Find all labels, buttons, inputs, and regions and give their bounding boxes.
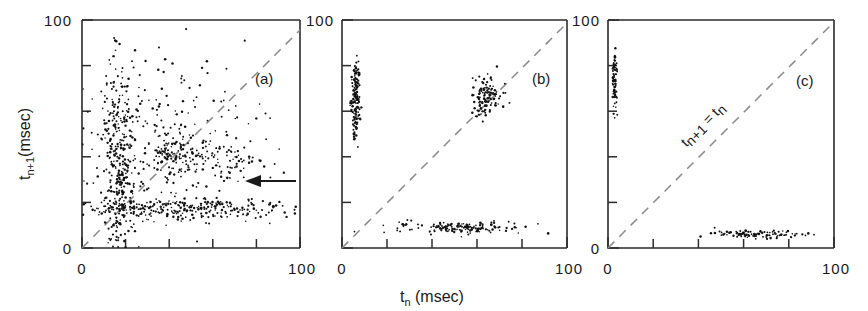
data-point (217, 158, 219, 160)
data-point (499, 95, 501, 97)
data-point (136, 203, 138, 205)
data-point (122, 67, 124, 69)
data-point (537, 223, 539, 225)
data-point (108, 120, 111, 123)
data-point (174, 110, 176, 112)
data-point (215, 202, 217, 204)
data-point (178, 128, 180, 130)
data-point (146, 202, 148, 204)
data-point (491, 88, 493, 90)
data-point (146, 122, 148, 124)
data-point (119, 210, 121, 212)
data-point (456, 229, 458, 231)
data-point (130, 212, 132, 214)
data-point (128, 145, 130, 147)
data-point (101, 212, 103, 214)
data-point (126, 136, 128, 138)
data-point (124, 124, 126, 126)
data-point (481, 81, 483, 83)
data-point (357, 74, 359, 76)
data-point (139, 213, 141, 215)
data-point (786, 231, 788, 233)
data-point (136, 206, 138, 208)
panel-c-identity-line (608, 22, 834, 248)
data-point (193, 163, 195, 165)
data-point (353, 79, 355, 81)
panel-b-identity-line (342, 23, 567, 248)
data-point (278, 201, 280, 203)
data-point (186, 205, 188, 207)
data-point (82, 127, 84, 129)
data-point (127, 77, 130, 80)
data-point (121, 191, 123, 193)
data-point (119, 178, 121, 180)
data-point (115, 222, 117, 224)
data-point (451, 223, 453, 225)
data-point (109, 140, 111, 142)
data-point (181, 111, 183, 113)
data-point (357, 99, 359, 101)
data-point (354, 80, 356, 82)
data-point (511, 228, 513, 230)
data-point (359, 117, 361, 119)
data-point (485, 101, 487, 103)
data-point (410, 220, 412, 222)
y-axis-title-sub: n+1 (24, 157, 36, 176)
data-point (118, 157, 121, 160)
data-point (234, 151, 236, 153)
data-point (205, 208, 207, 210)
data-point (182, 162, 184, 164)
data-point (114, 103, 116, 105)
data-point (226, 151, 228, 153)
data-point (120, 147, 122, 149)
data-point (168, 173, 171, 176)
data-point (214, 205, 216, 207)
data-point (144, 147, 146, 149)
data-point (139, 74, 141, 76)
data-point (121, 207, 123, 209)
data-point (801, 233, 803, 235)
data-point (491, 228, 493, 230)
data-point (247, 198, 249, 200)
data-point (358, 60, 360, 62)
data-point (274, 163, 276, 165)
data-point (109, 151, 112, 154)
panel-c-ytick-max: 100 (572, 12, 600, 29)
data-point (119, 155, 121, 157)
data-point (466, 226, 468, 228)
data-point (133, 186, 135, 188)
data-point (113, 115, 115, 117)
data-point (182, 100, 184, 102)
data-point (94, 210, 96, 212)
data-point (212, 100, 215, 103)
data-point (184, 155, 186, 157)
data-point (123, 120, 126, 123)
data-point (352, 129, 354, 131)
data-point (166, 181, 168, 183)
data-point (353, 118, 355, 120)
data-point (355, 121, 357, 123)
data-point (358, 114, 360, 116)
data-point (192, 153, 194, 155)
data-point (194, 124, 196, 126)
data-point (467, 233, 469, 235)
data-point (129, 220, 131, 222)
data-point (495, 102, 497, 104)
data-point (138, 208, 140, 210)
data-point (126, 103, 128, 105)
data-point (118, 205, 120, 207)
data-point (235, 137, 237, 139)
data-point (242, 213, 244, 215)
data-point (114, 125, 116, 127)
data-point (126, 120, 128, 122)
data-point (241, 161, 243, 163)
data-point (216, 212, 218, 214)
panel-b: 100 0 100 (b) tn (msec) (306, 12, 583, 308)
data-point (353, 116, 355, 118)
data-point (229, 172, 231, 174)
data-point (352, 89, 354, 91)
data-point (148, 143, 150, 145)
data-point (215, 130, 217, 132)
data-point (196, 169, 198, 171)
data-point (740, 235, 742, 237)
